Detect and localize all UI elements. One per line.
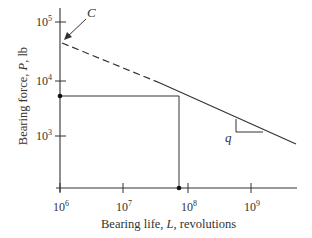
tick-exp: 8 — [193, 199, 197, 208]
tick-exp: 7 — [128, 199, 132, 208]
slope-triangle — [236, 119, 263, 132]
tick-exp: 9 — [256, 199, 260, 208]
tick-base: 10 — [36, 74, 48, 88]
x-axis-title-prefix: Bearing life, — [101, 217, 167, 231]
tick-exp: 3 — [48, 128, 52, 137]
y-axis-dot — [58, 94, 63, 99]
x-tick-label-1e8: 108 — [181, 199, 197, 215]
x-tick-label-1e7: 107 — [116, 199, 132, 215]
y-tick-label-1e5: 105 — [36, 14, 52, 30]
chart-canvas — [0, 0, 312, 238]
x-axis-title-var: L — [167, 217, 174, 231]
tick-base: 10 — [244, 200, 256, 214]
x-tick-label-1e6: 106 — [53, 199, 69, 215]
tick-base: 10 — [116, 200, 128, 214]
dashed-extrapolation-line — [62, 43, 160, 83]
tick-base: 10 — [36, 129, 48, 143]
tick-exp: 4 — [48, 73, 52, 82]
tick-exp: 5 — [48, 14, 52, 23]
y-tick-label-1e4: 104 — [36, 73, 52, 89]
tick-base: 10 — [36, 15, 48, 29]
annotation-q: q — [225, 130, 232, 146]
x-axis-title-suffix: , revolutions — [174, 217, 237, 231]
x-tick-label-1e9: 109 — [244, 199, 260, 215]
y-tick-label-1e3: 103 — [36, 128, 52, 144]
y-axis-title-prefix: Bearing force, — [16, 71, 30, 146]
y-axis-title-var: P — [16, 63, 30, 71]
x-axis-title: Bearing life, L, revolutions — [101, 217, 236, 232]
y-axis-title-suffix: , lb — [16, 47, 30, 63]
y-axis-title: Bearing force, P, lb — [16, 47, 31, 145]
tick-base: 10 — [53, 200, 65, 214]
x-axis-dot — [177, 186, 182, 191]
tick-exp: 6 — [65, 199, 69, 208]
annotation-c: C — [87, 5, 96, 21]
tick-base: 10 — [181, 200, 193, 214]
